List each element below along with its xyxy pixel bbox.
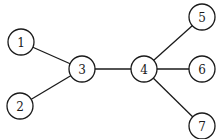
node-label: 5 <box>198 11 206 25</box>
node-6: 6 <box>189 56 215 82</box>
node-label: 2 <box>16 100 24 114</box>
node-label: 1 <box>17 36 25 50</box>
node-label: 7 <box>198 120 206 134</box>
node-label: 4 <box>140 63 148 77</box>
node-label: 6 <box>198 63 206 77</box>
node-7: 7 <box>189 113 215 139</box>
graph-diagram: 1234567 <box>0 0 222 139</box>
node-5: 5 <box>189 4 215 30</box>
node-label: 3 <box>78 63 86 77</box>
node-4: 4 <box>131 56 157 82</box>
edges-layer <box>20 17 202 126</box>
nodes-layer: 1234567 <box>7 4 215 139</box>
node-3: 3 <box>69 56 95 82</box>
node-1: 1 <box>8 29 34 55</box>
node-2: 2 <box>7 93 33 119</box>
